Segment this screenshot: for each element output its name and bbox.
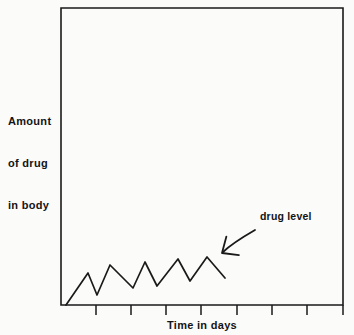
- x-axis-ticks: [96, 305, 343, 315]
- y-axis-label-line-1: Amount: [8, 114, 60, 128]
- arrow-shaft: [223, 230, 255, 252]
- plot-frame: [61, 8, 343, 305]
- y-axis-label-line-3: in body: [8, 198, 60, 212]
- figure-container: Amount of drug in body Time in days drug…: [0, 0, 354, 335]
- drug-level-curve: [66, 257, 225, 305]
- y-axis-label-line-2: of drug: [8, 156, 60, 170]
- x-axis-label: Time in days: [61, 318, 343, 332]
- drug-level-annotation-label: drug level: [260, 210, 312, 222]
- plot-frame-border: [61, 8, 343, 305]
- y-axis-label: Amount of drug in body: [8, 86, 60, 240]
- annotation-arrow: [222, 230, 255, 255]
